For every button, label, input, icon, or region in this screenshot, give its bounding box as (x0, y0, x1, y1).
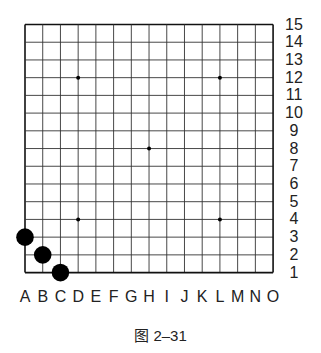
column-label: F (105, 289, 123, 305)
row-label: 7 (282, 158, 306, 174)
black-stone (34, 246, 52, 264)
column-label: C (51, 289, 69, 305)
column-label: H (140, 289, 158, 305)
row-label: 2 (282, 247, 306, 263)
column-label: M (229, 289, 247, 305)
star-point (76, 76, 80, 80)
black-stone (16, 228, 34, 246)
column-label: K (193, 289, 211, 305)
column-label: D (69, 289, 87, 305)
go-board (0, 0, 321, 290)
star-point (218, 217, 222, 221)
row-label: 11 (282, 87, 306, 103)
row-label: 4 (282, 211, 306, 227)
black-stone (52, 264, 70, 282)
column-label: A (16, 289, 34, 305)
star-point (76, 217, 80, 221)
column-label: N (246, 289, 264, 305)
row-label: 14 (282, 34, 306, 50)
row-label: 12 (282, 70, 306, 86)
row-label: 10 (282, 105, 306, 121)
star-point (218, 76, 222, 80)
column-label: O (264, 289, 282, 305)
row-label: 3 (282, 229, 306, 245)
column-label: G (122, 289, 140, 305)
row-label: 15 (282, 17, 306, 33)
row-label: 8 (282, 141, 306, 157)
column-label: J (175, 289, 193, 305)
column-label: I (158, 289, 176, 305)
row-label: 13 (282, 52, 306, 68)
column-label: E (87, 289, 105, 305)
row-label: 5 (282, 194, 306, 210)
star-point (147, 147, 151, 151)
row-label: 6 (282, 176, 306, 192)
row-label: 9 (282, 123, 306, 139)
figure-caption: 图 2–31 (0, 324, 321, 345)
row-label: 1 (282, 265, 306, 281)
column-label: B (34, 289, 52, 305)
column-label: L (211, 289, 229, 305)
